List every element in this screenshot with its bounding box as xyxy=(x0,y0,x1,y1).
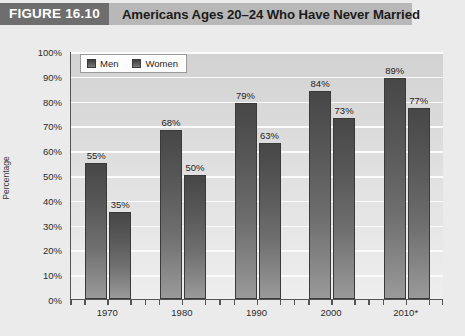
x-axis-tickmark xyxy=(84,300,86,305)
x-axis-tickmark xyxy=(442,300,444,305)
x-axis-label-2010: 2010* xyxy=(393,307,418,318)
bar-men-1980 xyxy=(160,130,182,299)
bar-women-1980 xyxy=(184,175,206,299)
x-axis-label-2000: 2000 xyxy=(321,307,342,318)
bar-value-label: 50% xyxy=(185,162,204,173)
legend-entry-men: Men xyxy=(87,58,118,69)
bar-men-1990 xyxy=(235,103,257,299)
x-axis-tickmark xyxy=(308,300,310,305)
y-axis-tick-50: 50% xyxy=(43,171,62,182)
y-axis-tick-80: 80% xyxy=(43,96,62,107)
bar-value-label: 35% xyxy=(111,199,130,210)
x-axis-tickmark xyxy=(294,300,296,305)
x-axis-label-1970: 1970 xyxy=(97,307,118,318)
x-axis-tick-labels: 19701980199020002010* xyxy=(70,300,443,330)
x-axis-tickmark xyxy=(429,300,431,305)
plot-area: 55%35%68%50%79%63%84%73%89%77% xyxy=(70,52,443,300)
x-axis-tickmark xyxy=(130,300,132,305)
legend-label: Men xyxy=(100,58,118,69)
legend-swatch-icon-women xyxy=(132,59,141,68)
figure-header-bar: FIGURE 16.10 Americans Ages 20–24 Who Ha… xyxy=(0,3,412,25)
y-axis-tick-60: 60% xyxy=(43,146,62,157)
y-axis-tick-10: 10% xyxy=(43,270,62,281)
x-axis-tickmark xyxy=(280,300,282,305)
x-axis-tickmark xyxy=(383,300,385,305)
bar-value-label: 73% xyxy=(335,105,354,116)
bar-value-label: 77% xyxy=(409,95,428,106)
x-axis-label-1990: 1990 xyxy=(246,307,267,318)
bar-men-2010 xyxy=(384,78,406,299)
bar-value-label: 84% xyxy=(311,78,330,89)
x-axis-tickmark xyxy=(354,300,356,305)
bar-women-2010 xyxy=(408,108,430,299)
x-axis-tickmark xyxy=(182,300,184,305)
y-axis-tick-20: 20% xyxy=(43,245,62,256)
bar-value-label: 79% xyxy=(236,90,255,101)
chart-legend: MenWomen xyxy=(80,54,187,73)
x-axis-tickmark xyxy=(205,300,207,305)
x-axis-tickmark xyxy=(257,300,259,305)
bar-women-1990 xyxy=(259,143,281,299)
bars-layer: 55%35%68%50%79%63%84%73%89%77% xyxy=(71,52,443,299)
y-axis-tick-labels: 100%90%80%70%60%50%40%30%20%10%0% xyxy=(16,52,66,300)
bar-women-1970 xyxy=(109,212,131,299)
bar-men-1970 xyxy=(85,163,107,299)
bar-value-label: 68% xyxy=(161,117,180,128)
x-axis-tickmark xyxy=(368,300,370,305)
y-axis-tick-90: 90% xyxy=(43,71,62,82)
bar-value-label: 63% xyxy=(260,130,279,141)
x-axis-tickmark xyxy=(107,300,109,305)
y-axis-title: Percentage xyxy=(1,156,11,199)
figure-title: Americans Ages 20–24 Who Have Never Marr… xyxy=(109,7,420,22)
bar-value-label: 89% xyxy=(385,65,404,76)
bar-women-2000 xyxy=(333,118,355,299)
x-axis-tickmark xyxy=(70,300,72,305)
x-axis-tickmark xyxy=(219,300,221,305)
x-axis-tickmark xyxy=(234,300,236,305)
x-axis-tickmark xyxy=(331,300,333,305)
y-axis-tick-70: 70% xyxy=(43,121,62,132)
legend-entry-women: Women xyxy=(132,58,178,69)
x-axis-tickmark xyxy=(159,300,161,305)
legend-swatch-icon-men xyxy=(87,59,96,68)
bar-men-2000 xyxy=(309,91,331,299)
x-axis-tickmark xyxy=(145,300,147,305)
x-axis-tickmark xyxy=(406,300,408,305)
x-axis-label-1980: 1980 xyxy=(171,307,192,318)
figure-number-label: FIGURE 16.10 xyxy=(0,3,109,25)
legend-label: Women xyxy=(145,58,178,69)
y-axis-tick-40: 40% xyxy=(43,195,62,206)
y-axis-tick-0: 0% xyxy=(48,295,62,306)
chart-container: Percentage 100%90%80%70%60%50%40%30%20%1… xyxy=(0,28,465,336)
bar-value-label: 55% xyxy=(87,150,106,161)
y-axis-tick-100: 100% xyxy=(38,47,62,58)
y-axis-tick-30: 30% xyxy=(43,220,62,231)
